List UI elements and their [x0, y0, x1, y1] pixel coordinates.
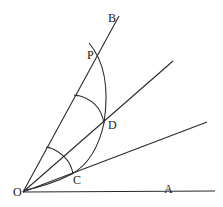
ray-OC	[23, 122, 207, 192]
label-O: O	[13, 185, 22, 199]
label-B: B	[108, 11, 116, 25]
label-D: D	[108, 118, 117, 132]
ray-OA	[23, 191, 215, 192]
arc-PDC	[26, 43, 106, 190]
ray-OD	[23, 61, 173, 192]
arc-middle	[76, 95, 104, 123]
label-A: A	[164, 182, 173, 196]
label-C: C	[73, 173, 81, 187]
geometry-diagram: O A B P D C	[0, 0, 223, 207]
label-P: P	[87, 48, 94, 62]
